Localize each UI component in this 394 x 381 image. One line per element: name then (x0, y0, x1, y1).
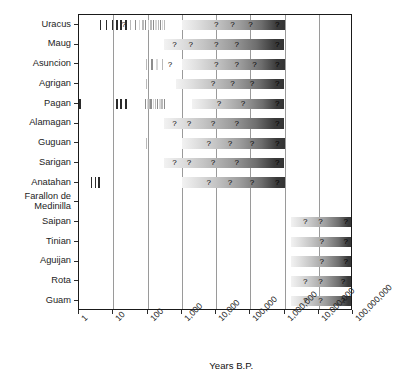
question-mark-annotation: ? (275, 21, 279, 29)
dated-eruption-marker (153, 20, 154, 31)
uncertainty-band (182, 59, 285, 70)
question-mark-annotation: ? (172, 120, 176, 128)
question-mark-annotation: ? (172, 159, 176, 167)
y-axis-label-aguijan: Aguijan (0, 255, 71, 265)
dated-eruption-marker (151, 59, 152, 70)
chart-row: ??? (79, 276, 351, 287)
dated-eruption-marker (164, 99, 165, 110)
y-axis-label-text: Saipan (0, 216, 71, 226)
chart-row: ???? (79, 177, 351, 188)
chart-row: ???? (79, 79, 351, 90)
chart-row (79, 197, 351, 208)
dated-eruption-marker (142, 20, 143, 31)
question-mark-annotation: ? (211, 80, 215, 88)
dated-eruption-marker (155, 20, 156, 31)
question-mark-annotation: ? (241, 100, 245, 108)
y-axis-label-text: Tinian (0, 236, 71, 246)
chart-row: ?? (79, 256, 351, 267)
question-mark-annotation: ? (187, 159, 191, 167)
y-axis-tick (74, 201, 78, 202)
question-mark-annotation: ? (275, 140, 279, 148)
y-axis-label-text: Uracus (0, 19, 71, 29)
question-mark-annotation: ? (341, 278, 345, 286)
dated-eruption-marker (145, 20, 146, 31)
question-mark-annotation: ? (275, 61, 279, 69)
dated-eruption-marker (153, 99, 154, 110)
dated-eruption-marker (98, 177, 100, 188)
y-axis-label-asuncion: Asuncion (0, 58, 71, 68)
y-axis-label-rota: Rota (0, 275, 71, 285)
y-axis-tick (74, 221, 78, 222)
question-mark-annotation: ? (230, 80, 234, 88)
y-axis-label-text: Rota (0, 275, 71, 285)
question-mark-annotation: ? (235, 120, 239, 128)
dated-eruption-marker (116, 99, 118, 110)
dated-eruption-marker (139, 20, 140, 31)
question-mark-annotation: ? (275, 41, 279, 49)
dated-eruption-marker (125, 99, 127, 110)
dated-eruption-marker (156, 59, 157, 70)
question-mark-annotation: ? (250, 80, 254, 88)
dated-eruption-marker (164, 20, 165, 31)
y-axis-label-agrigan: Agrigan (0, 78, 71, 88)
question-mark-annotation: ? (172, 41, 176, 49)
y-axis-label-pagan: Pagan (0, 98, 71, 108)
y-axis-tick (74, 123, 78, 124)
y-axis-label-text: Alamagan (0, 117, 71, 127)
question-mark-annotation: ? (228, 140, 232, 148)
question-mark-annotation: ? (228, 179, 232, 187)
x-axis-tick (352, 310, 353, 314)
question-mark-annotation: ? (318, 297, 322, 305)
dated-eruption-marker (120, 20, 122, 31)
y-axis-label-text: Maug (0, 38, 71, 48)
y-axis-tick (74, 300, 78, 301)
y-axis-label-guam: Guam (0, 295, 71, 305)
dated-eruption-marker (125, 20, 127, 31)
x-axis-title: Years B.P. (209, 360, 253, 371)
y-axis-tick (74, 44, 78, 45)
y-axis-label-text: Farallon de (0, 191, 71, 201)
y-axis-label-saipan: Saipan (0, 216, 71, 226)
chart-row: ????? (79, 158, 351, 169)
dated-eruption-marker (120, 99, 122, 110)
dated-eruption-marker (161, 99, 162, 110)
y-axis-label-anatahan: Anatahan (0, 177, 71, 187)
dated-eruption-marker (106, 20, 108, 31)
question-mark-annotation: ? (230, 21, 234, 29)
question-mark-annotation: ? (235, 41, 239, 49)
dated-eruption-marker (150, 99, 151, 110)
plot-area: ????????????????????????????????????????… (78, 14, 352, 310)
y-axis-label-text: Aguijan (0, 255, 71, 265)
dated-eruption-marker (95, 177, 97, 188)
y-axis-label-text: Agrigan (0, 78, 71, 88)
chart-row: ??? (79, 99, 351, 110)
y-axis-tick (74, 24, 78, 25)
uncertainty-band (192, 99, 284, 110)
chart-row: ????? (79, 20, 351, 31)
question-mark-annotation: ? (188, 41, 192, 49)
question-mark-annotation: ? (250, 179, 254, 187)
y-axis-tick (74, 241, 78, 242)
uncertainty-band (164, 158, 285, 169)
dated-eruption-marker (146, 79, 147, 90)
chart-row: ????? (79, 118, 351, 129)
x-axis-tick (249, 310, 250, 314)
y-axis-label-maug: Maug (0, 38, 71, 48)
question-mark-annotation: ? (318, 218, 322, 226)
y-axis-tick (74, 280, 78, 281)
y-axis-label-text: Asuncion (0, 58, 71, 68)
question-mark-annotation: ? (214, 61, 218, 69)
dated-eruption-marker (157, 99, 158, 110)
question-mark-annotation: ? (318, 278, 322, 286)
chart-row: ???? (79, 138, 351, 149)
question-mark-annotation: ? (275, 179, 279, 187)
y-axis-tick (74, 182, 78, 183)
question-mark-annotation: ? (248, 21, 252, 29)
y-axis-tick (74, 142, 78, 143)
y-axis-label-alamagan: Alamagan (0, 117, 71, 127)
x-axis-tick (147, 310, 148, 314)
question-mark-annotation: ? (343, 218, 347, 226)
question-mark-annotation: ? (303, 218, 307, 226)
x-axis-tick (181, 310, 182, 314)
